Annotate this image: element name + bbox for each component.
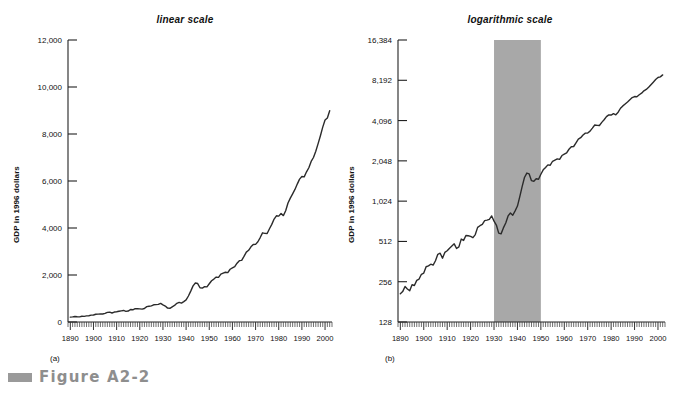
x-tick-label: 1960	[556, 334, 573, 343]
y-tick-label: 16,384	[368, 36, 393, 45]
chart-panel-log: logarithmic scale GDP in 1996 dollars 12…	[335, 0, 675, 372]
x-tick-label: 2000	[650, 334, 667, 343]
x-tick-label: 1910	[439, 334, 456, 343]
x-tick-label: 1990	[626, 334, 643, 343]
y-tick-label: 10,000	[38, 83, 63, 92]
y-tick-label: 1,024	[372, 197, 393, 206]
x-tick-label: 1910	[108, 334, 125, 343]
y-tick-label: 4,096	[372, 117, 393, 126]
x-tick-label: 1990	[293, 334, 310, 343]
plot-area-linear: 02,0004,0006,0008,00010,00012,0001890190…	[0, 0, 340, 372]
y-tick-label: 12,000	[38, 36, 63, 45]
x-tick-label: 1890	[392, 334, 409, 343]
figure-caption-swatch	[8, 373, 32, 382]
figure-caption: Figure A2-2	[8, 368, 151, 386]
y-tick-label: 256	[379, 278, 393, 287]
x-tick-label: 1970	[579, 334, 596, 343]
x-tick-label: 1920	[462, 334, 479, 343]
x-tick-label: 1970	[247, 334, 264, 343]
y-tick-label: 8,192	[372, 76, 393, 85]
chart-panel-linear: linear scale GDP in 1996 dollars 02,0004…	[0, 0, 340, 372]
x-tick-label: 1890	[62, 334, 79, 343]
y-tick-label: 2,000	[42, 271, 63, 280]
x-tick-label: 1930	[486, 334, 503, 343]
panel-sub-label-b: (b)	[385, 354, 395, 363]
gdp-series-line	[70, 111, 329, 317]
x-tick-label: 1960	[224, 334, 241, 343]
y-tick-label: 2,048	[372, 157, 393, 166]
y-tick-label: 6,000	[42, 177, 63, 186]
x-tick-label: 1950	[201, 334, 218, 343]
x-tick-label: 1940	[509, 334, 526, 343]
x-tick-label: 1940	[178, 334, 195, 343]
figure-page: linear scale GDP in 1996 dollars 02,0004…	[0, 0, 675, 393]
plot-area-log: 1282565121,0242,0484,0968,19216,38418901…	[335, 0, 675, 372]
x-tick-label: 2000	[317, 334, 334, 343]
y-tick-label: 512	[379, 237, 393, 246]
x-tick-label: 1980	[270, 334, 287, 343]
panel-sub-label-a: (a)	[50, 354, 60, 363]
figure-caption-text: Figure A2-2	[39, 368, 151, 386]
x-tick-label: 1920	[131, 334, 148, 343]
x-tick-label: 1930	[154, 334, 171, 343]
x-tick-label: 1980	[603, 334, 620, 343]
y-tick-label: 128	[379, 318, 393, 327]
x-tick-label: 1950	[532, 334, 549, 343]
y-tick-label: 4,000	[42, 224, 63, 233]
x-tick-label: 1900	[85, 334, 102, 343]
y-tick-label: 0	[58, 318, 63, 327]
x-tick-label: 1900	[415, 334, 432, 343]
y-tick-label: 8,000	[42, 130, 63, 139]
